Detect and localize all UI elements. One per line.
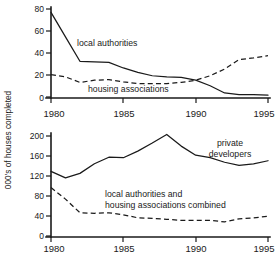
- bot-ytick-160: 160: [30, 151, 44, 161]
- annotation-combined-line2: housing associations combined: [105, 200, 226, 210]
- bot-xtick-1995: 1995: [253, 243, 274, 253]
- top-xtick-1980: 1980: [43, 108, 64, 119]
- top-xtick-1995: 1995: [253, 108, 274, 119]
- annotation-housing-associations: housing associations: [88, 84, 169, 94]
- bot-xtick-1990: 1990: [185, 243, 206, 253]
- chart-figure: 000's of houses completed 80 60 40 20 0: [0, 0, 278, 253]
- houses-completed-figure: 000's of houses completed 80 60 40 20 0: [0, 0, 278, 253]
- annotation-combined-line1: local authorities and: [105, 189, 182, 199]
- y-axis-title: 000's of houses completed: [3, 90, 13, 189]
- series-local-authorities: [51, 12, 268, 95]
- series-housing-associations: [51, 56, 268, 84]
- bot-ytick-200: 200: [30, 131, 44, 141]
- top-ytick-20: 20: [35, 70, 45, 80]
- bot-ytick-80: 80: [35, 191, 45, 201]
- top-xtick-1990: 1990: [185, 108, 206, 119]
- annotation-private-developers-line1: private: [217, 138, 243, 148]
- bot-xtick-1980: 1980: [43, 243, 64, 253]
- bottom-panel: 200 160 120 80 40 0: [30, 131, 275, 253]
- top-panel: 80 60 40 20 0 1: [35, 4, 275, 119]
- annotation-private-developers-line2: developers: [209, 149, 252, 159]
- bot-ytick-120: 120: [30, 171, 44, 181]
- bot-xtick-1985: 1985: [113, 243, 134, 253]
- top-xtick-1985: 1985: [113, 108, 134, 119]
- top-ytick-80: 80: [35, 4, 45, 14]
- bot-ytick-0: 0: [39, 231, 44, 241]
- top-ytick-60: 60: [35, 26, 45, 36]
- top-ytick-0: 0: [39, 93, 44, 103]
- annotation-local-authorities: local authorities: [77, 38, 138, 48]
- top-ytick-40: 40: [35, 48, 45, 58]
- bot-ytick-40: 40: [35, 211, 45, 221]
